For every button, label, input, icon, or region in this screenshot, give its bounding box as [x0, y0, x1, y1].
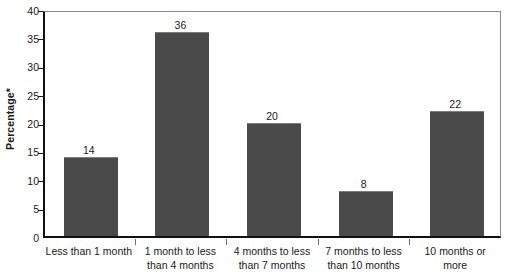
bar-value-label: 36 [160, 20, 200, 31]
x-axis-category-label-line: than 10 months [318, 259, 410, 273]
y-axis-tick-label: 35 [17, 34, 39, 45]
y-axis-tick-label: 25 [17, 91, 39, 102]
bar [247, 123, 301, 237]
bar [430, 111, 484, 236]
y-axis-tick-labels: 0510152025303540 [15, 0, 39, 280]
x-axis-category-label-line: more [409, 259, 501, 273]
x-axis-category-label-line: than 7 months [226, 259, 318, 273]
bar-chart-figure: Percentage* 0510152025303540 143620822 L… [0, 0, 515, 280]
bar-value-label: 14 [69, 145, 109, 156]
x-axis-category-label-line: 1 month to less [145, 245, 216, 257]
y-axis-tick-label: 5 [17, 204, 39, 215]
y-axis-tick-label: 30 [17, 62, 39, 73]
x-axis-category-label-line: 7 months to less [325, 245, 401, 257]
bar-value-label: 20 [252, 111, 292, 122]
y-axis-tick-label: 10 [17, 176, 39, 187]
x-axis-category-label: 10 months ormore [409, 245, 501, 272]
bar [155, 32, 209, 236]
y-axis-tick-label: 0 [17, 233, 39, 244]
y-axis-tick-label: 40 [17, 6, 39, 17]
plot-area [43, 11, 501, 238]
x-axis-category-label: 1 month to lessthan 4 months [135, 245, 227, 272]
bar-value-label: 22 [435, 99, 475, 110]
bar-value-label: 8 [344, 179, 384, 190]
x-axis-category-label-line: than 4 months [135, 259, 227, 273]
x-axis-category-label: 7 months to lessthan 10 months [318, 245, 410, 272]
x-axis-category-label: 4 months to lessthan 7 months [226, 245, 318, 272]
x-axis-category-label: Less than 1 month [43, 245, 135, 259]
y-axis-tick-label: 20 [17, 119, 39, 130]
x-axis-category-label-line: 4 months to less [234, 245, 310, 257]
bar [339, 191, 393, 236]
x-axis-category-label-line: 10 months or [425, 245, 486, 257]
bar [64, 157, 118, 236]
y-axis-tick-label: 15 [17, 147, 39, 158]
x-axis-category-label-line: Less than 1 month [46, 245, 132, 257]
